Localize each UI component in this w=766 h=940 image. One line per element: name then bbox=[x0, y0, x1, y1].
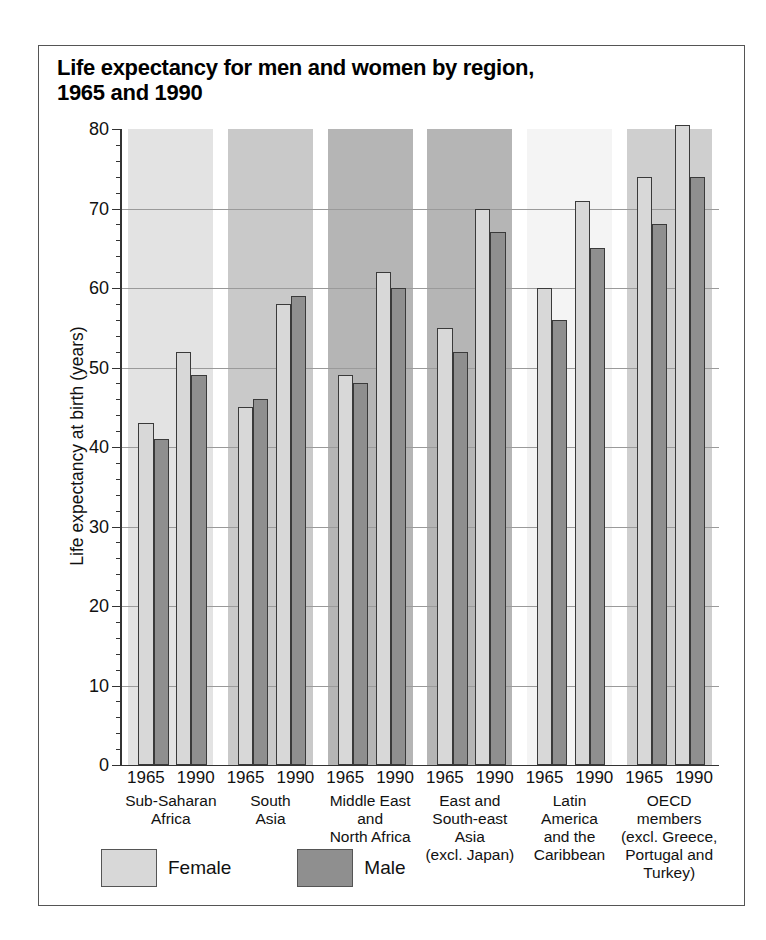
y-axis-title: Life expectancy at birth (years) bbox=[67, 326, 88, 565]
bar-male-1990 bbox=[590, 248, 605, 765]
plot-area: 01020304050607080 bbox=[121, 129, 719, 765]
x-axis-year-label: 1965 bbox=[520, 769, 570, 788]
chart-legend: FemaleMale bbox=[101, 849, 406, 887]
y-tick-minor bbox=[116, 272, 121, 273]
x-axis-region-label: South Asia bbox=[221, 792, 321, 828]
y-tick-label: 60 bbox=[89, 278, 109, 299]
bar-female-1990 bbox=[675, 125, 690, 765]
y-tick-minor bbox=[116, 399, 121, 400]
legend-swatch-male bbox=[297, 849, 353, 887]
bar-male-1990 bbox=[391, 288, 406, 765]
x-axis-year-label: 1990 bbox=[470, 769, 520, 788]
y-tick-minor bbox=[116, 701, 121, 702]
bar-female-1990 bbox=[276, 304, 291, 765]
y-tick-major bbox=[112, 527, 121, 528]
y-tick-minor bbox=[116, 415, 121, 416]
gridline bbox=[121, 527, 719, 528]
x-axis-year-label: 1965 bbox=[320, 769, 370, 788]
x-axis-group: 19651990Latin America and the Caribbean bbox=[520, 769, 620, 864]
bar-male-1965 bbox=[552, 320, 567, 765]
bar-female-1965 bbox=[437, 328, 452, 765]
gridline bbox=[121, 686, 719, 687]
y-tick-minor bbox=[116, 145, 121, 146]
gridline bbox=[121, 447, 719, 448]
bar-male-1965 bbox=[453, 352, 468, 765]
chart-title: Life expectancy for men and women by reg… bbox=[57, 56, 717, 105]
y-tick-minor bbox=[116, 638, 121, 639]
bar-male-1990 bbox=[191, 375, 206, 765]
y-tick-label: 30 bbox=[89, 516, 109, 537]
y-tick-minor bbox=[116, 733, 121, 734]
y-tick-major bbox=[112, 368, 121, 369]
x-axis-year-label: 1965 bbox=[420, 769, 470, 788]
legend-item: Male bbox=[297, 849, 405, 887]
x-axis-year-label: 1965 bbox=[121, 769, 171, 788]
legend-swatch-female bbox=[101, 849, 157, 887]
x-axis-year-label: 1990 bbox=[270, 769, 320, 788]
y-tick-minor bbox=[116, 574, 121, 575]
x-axis-line bbox=[120, 765, 719, 767]
x-axis-year-label: 1990 bbox=[569, 769, 619, 788]
y-tick-minor bbox=[116, 240, 121, 241]
y-tick-minor bbox=[116, 654, 121, 655]
legend-item: Female bbox=[101, 849, 231, 887]
y-tick-major bbox=[112, 288, 121, 289]
gridline bbox=[121, 288, 719, 289]
y-tick-major bbox=[112, 209, 121, 210]
bar-female-1990 bbox=[475, 209, 490, 766]
x-axis-year-label: 1965 bbox=[619, 769, 669, 788]
x-axis-region-label: East and South-east Asia (excl. Japan) bbox=[420, 792, 520, 864]
bar-female-1990 bbox=[376, 272, 391, 765]
y-tick-minor bbox=[116, 320, 121, 321]
y-axis-title-wrap: Life expectancy at birth (years) bbox=[71, 46, 72, 905]
y-tick-minor bbox=[116, 256, 121, 257]
x-axis-year-label: 1990 bbox=[171, 769, 221, 788]
x-axis-group: 19651990Sub-Saharan Africa bbox=[121, 769, 221, 828]
y-tick-major bbox=[112, 129, 121, 130]
y-tick-minor bbox=[116, 590, 121, 591]
x-axis-year-label: 1990 bbox=[370, 769, 420, 788]
y-tick-minor bbox=[116, 558, 121, 559]
y-tick-minor bbox=[116, 161, 121, 162]
y-tick-minor bbox=[116, 193, 121, 194]
y-tick-label: 70 bbox=[89, 198, 109, 219]
y-tick-major bbox=[112, 447, 121, 448]
bar-male-1990 bbox=[490, 232, 505, 765]
chart-frame: Life expectancy for men and women by reg… bbox=[38, 45, 745, 906]
y-tick-label: 0 bbox=[99, 755, 109, 776]
gridline bbox=[121, 368, 719, 369]
x-axis-group: 19651990OECD members (excl. Greece, Port… bbox=[619, 769, 719, 882]
bar-male-1965 bbox=[353, 383, 368, 765]
y-tick-minor bbox=[116, 511, 121, 512]
bar-female-1965 bbox=[338, 375, 353, 765]
y-tick-major bbox=[112, 606, 121, 607]
y-tick-minor bbox=[116, 479, 121, 480]
bar-female-1965 bbox=[537, 288, 552, 765]
y-tick-major bbox=[112, 765, 121, 766]
y-tick-label: 80 bbox=[89, 119, 109, 140]
x-axis-region-label: OECD members (excl. Greece, Portugal and… bbox=[619, 792, 719, 882]
y-tick-minor bbox=[116, 336, 121, 337]
y-tick-minor bbox=[116, 670, 121, 671]
y-tick-minor bbox=[116, 622, 121, 623]
bar-female-1965 bbox=[637, 177, 652, 765]
y-tick-minor bbox=[116, 717, 121, 718]
y-tick-minor bbox=[116, 431, 121, 432]
bar-female-1965 bbox=[138, 423, 153, 765]
y-tick-label: 10 bbox=[89, 675, 109, 696]
bar-male-1990 bbox=[690, 177, 705, 765]
y-tick-minor bbox=[116, 463, 121, 464]
x-axis-region-label: Latin America and the Caribbean bbox=[520, 792, 620, 864]
bar-female-1990 bbox=[575, 201, 590, 765]
gridline bbox=[121, 209, 719, 210]
y-tick-minor bbox=[116, 224, 121, 225]
x-axis-group: 19651990East and South-east Asia (excl. … bbox=[420, 769, 520, 864]
y-tick-minor bbox=[116, 383, 121, 384]
legend-label: Female bbox=[168, 857, 231, 879]
y-tick-minor bbox=[116, 352, 121, 353]
y-tick-label: 50 bbox=[89, 357, 109, 378]
x-axis-region-label: Middle East and North Africa bbox=[320, 792, 420, 846]
legend-label: Male bbox=[364, 857, 405, 879]
y-tick-minor bbox=[116, 749, 121, 750]
y-tick-major bbox=[112, 686, 121, 687]
